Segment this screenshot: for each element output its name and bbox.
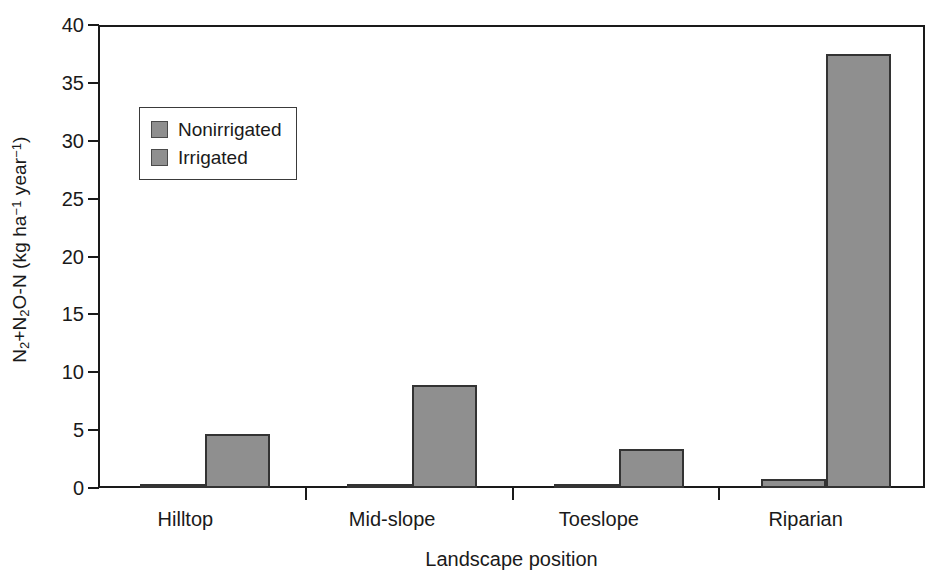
x-axis-tick-mark (718, 488, 720, 500)
x-axis-tick-mark (512, 488, 514, 500)
x-axis-category-label: Riparian (768, 508, 842, 531)
bar-nonirrigated-hilltop (140, 484, 205, 488)
y-axis-tick-label: 5 (30, 420, 84, 440)
y-axis-tick-label: 25 (30, 189, 84, 209)
x-axis-tick-mark (305, 488, 307, 500)
y-axis-tick-label: 35 (30, 73, 84, 93)
legend-label-nonirrigated: Nonirrigated (178, 120, 282, 139)
x-axis-category-label: Hilltop (158, 508, 214, 531)
y-axis-tick-label: 40 (30, 15, 84, 35)
legend-swatch-irrigated (151, 149, 168, 166)
chart-legend: Nonirrigated Irrigated (139, 107, 297, 180)
legend-label-irrigated: Irrigated (178, 148, 248, 167)
y-axis-tick-label: 0 (30, 478, 84, 498)
bar-irrigated-hilltop (205, 434, 270, 488)
bar-nonirrigated-mid-slope (347, 484, 412, 488)
x-axis-category-label: Mid-slope (349, 508, 436, 531)
legend-item-nonirrigated: Nonirrigated (151, 115, 282, 143)
y-axis-tick-labels: 0510152025303540 (24, 0, 84, 582)
y-axis-tick-label: 15 (30, 304, 84, 324)
legend-swatch-nonirrigated (151, 121, 168, 138)
x-axis-category-label: Toeslope (559, 508, 639, 531)
x-axis-title: Landscape position (98, 548, 925, 571)
bars-layer (98, 25, 925, 488)
bar-irrigated-riparian (826, 54, 891, 488)
bar-nonirrigated-toeslope (554, 484, 619, 488)
bar-irrigated-mid-slope (412, 385, 477, 488)
y-axis-tick-label: 30 (30, 131, 84, 151)
legend-item-irrigated: Irrigated (151, 143, 282, 171)
bar-chart-figure: N2+N2O-N (kg ha−1 year−1) 05101520253035… (0, 0, 935, 582)
y-axis-tick-label: 20 (30, 247, 84, 267)
bar-nonirrigated-riparian (761, 479, 826, 488)
y-axis-tick-label: 10 (30, 362, 84, 382)
bar-irrigated-toeslope (619, 449, 684, 488)
